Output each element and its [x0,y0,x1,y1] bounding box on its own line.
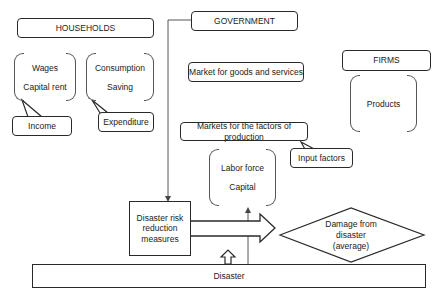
saving-label: Saving [107,82,133,92]
damage-line-3: (average) [310,241,392,252]
expenditure-group: Consumption Saving [86,53,154,101]
capital-rent-label: Capital rent [23,82,66,92]
expenditure-label: Expenditure [103,117,148,128]
damage-label: Damage from disaster (average) [310,219,392,252]
capital-label: Capital [229,182,255,192]
firms-header: FIRMS [342,50,431,71]
drr-line-1: Disaster risk [137,213,184,224]
products-group: Products [350,75,417,132]
arrow-up-icon [245,207,251,213]
goods-market-label: Market for goods and services [189,67,303,78]
government-header: GOVERNMENT [191,11,298,31]
income-callout-tail [22,100,42,117]
government-title: GOVERNMENT [214,16,275,27]
households-title: HOUSEHOLDS [56,23,116,34]
input-factors-callout: Input factors [290,148,353,168]
drr-measures-box: Disaster risk reduction measures [129,201,191,256]
income-label: Income [28,121,56,132]
income-callout: Income [12,116,72,136]
wages-label: Wages [32,63,58,73]
income-group: Wages Capital rent [14,53,76,101]
hollow-arrow-up-icon [221,250,235,264]
government-connector [168,20,191,200]
firms-title: FIRMS [373,55,399,66]
households-header: HOUSEHOLDS [17,18,154,38]
disaster-bar: Disaster [32,264,426,288]
block-arrow-right-icon [190,214,275,242]
disaster-label: Disaster [213,271,244,282]
expenditure-callout: Expenditure [98,112,154,132]
products-label: Products [367,99,401,109]
damage-line-2: disaster [310,230,392,241]
input-factors-label: Input factors [298,153,345,164]
damage-line-1: Damage from [310,219,392,230]
drr-line-2: reduction [143,223,178,234]
factor-group: Labor force Capital [209,149,276,206]
drr-line-3: measures [141,234,178,245]
consumption-label: Consumption [95,63,145,73]
factor-market-box: Markets for the factors of production [180,122,308,141]
labor-force-label: Labor force [221,163,264,173]
factor-market-label: Markets for the factors of production [181,121,307,142]
goods-market-box: Market for goods and services [188,62,304,82]
